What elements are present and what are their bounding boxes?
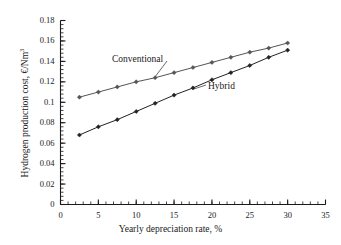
annotation-leader-lines [155, 61, 206, 89]
y-tick-label: 0.18 [8, 16, 55, 25]
y-tick-label: 0.12 [8, 77, 55, 86]
y-tick-label: 0.08 [8, 118, 55, 127]
y-axis-title-exponent: 3 [18, 49, 25, 52]
x-tick-label: 25 [235, 211, 265, 220]
x-tick-label: 20 [197, 211, 227, 220]
data-series [77, 41, 289, 137]
y-tick-label: 0.14 [8, 57, 55, 66]
x-tick-label: 0 [46, 211, 76, 220]
axes [61, 21, 326, 205]
y-tick-label: 0.06 [8, 139, 55, 148]
annotation-conventional: Conventional [112, 54, 163, 64]
y-tick-label: 0.1 [8, 98, 55, 107]
y-axis-title-base: Hydrogen production cost, €/Nm [20, 52, 30, 178]
y-tick-label: 0 [8, 200, 55, 209]
y-tick-label: 0.04 [8, 159, 55, 168]
y-tick-label: 0.16 [8, 36, 55, 45]
y-tick-label: 0.02 [8, 180, 55, 189]
annotation-hybrid: Hybrid [208, 81, 235, 91]
x-tick-label: 30 [273, 211, 303, 220]
chart-figure: 00.020.040.060.080.10.120.140.160.18 051… [0, 0, 341, 245]
y-axis-title: Hydrogen production cost, €/Nm3 [20, 18, 30, 208]
x-tick-label: 15 [159, 211, 189, 220]
x-tick-label: 35 [311, 211, 341, 220]
x-tick-label: 5 [83, 211, 113, 220]
x-axis-title: Yearly depreciation rate, % [0, 224, 341, 234]
x-tick-label: 10 [121, 211, 151, 220]
